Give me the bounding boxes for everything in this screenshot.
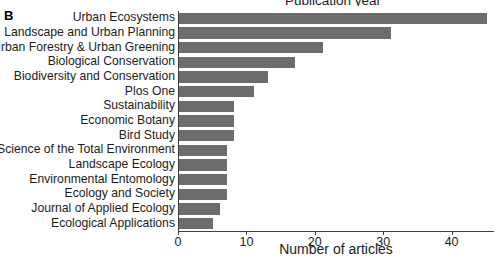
bar: [179, 189, 227, 200]
y-axis-category-label: Landscape and Urban Planning: [4, 26, 175, 40]
y-axis-category-label: Journal of Applied Ecology: [31, 202, 175, 216]
bar-row: Biodiversity and Conservation: [178, 70, 494, 85]
bar-row: Landscape Ecology: [178, 158, 494, 173]
bar-row: Journal of Applied Ecology: [178, 202, 494, 217]
y-axis-category-label: Landscape Ecology: [69, 158, 175, 172]
y-axis-category-label: Urban Ecosystems: [73, 11, 175, 25]
bar-row: Biological Conservation: [178, 55, 494, 70]
bar-row: Ecology and Society: [178, 187, 494, 202]
figure-panel-b: B Publication year 010203040 Urban Ecosy…: [0, 0, 495, 261]
bar: [179, 57, 295, 68]
bar-row: Urban Ecosystems: [178, 11, 494, 26]
bar-row: Ecological Applications: [178, 217, 494, 232]
y-axis-category-label: Plos One: [125, 85, 175, 99]
x-axis-label: Number of articles: [178, 241, 494, 257]
bar-row: Urban Forestry & Urban Greening: [178, 41, 494, 56]
y-axis-category-label: Environmental Entomology: [29, 173, 175, 187]
bar: [179, 101, 234, 112]
bar-row: Sustainability: [178, 99, 494, 114]
y-axis-category-label: Economic Botany: [80, 114, 175, 128]
y-axis-category-label: Ecological Applications: [51, 217, 175, 231]
bar: [179, 159, 227, 170]
bar-row: Bird Study: [178, 129, 494, 144]
bar: [179, 115, 234, 126]
bar: [179, 130, 234, 141]
bar: [179, 145, 227, 156]
y-axis-category-label: Ecology and Society: [65, 187, 175, 201]
y-axis-category-label: Sustainability: [103, 99, 175, 113]
bar: [179, 86, 254, 97]
y-axis-category-label: Bird Study: [119, 129, 175, 143]
bar-row: Economic Botany: [178, 114, 494, 129]
bar: [179, 27, 391, 38]
panel-label-b: B: [4, 9, 13, 22]
bar: [179, 174, 227, 185]
bar-row: Environmental Entomology: [178, 173, 494, 188]
bar-row: Landscape and Urban Planning: [178, 26, 494, 41]
bar: [179, 13, 487, 24]
y-axis-category-label: Biodiversity and Conservation: [14, 70, 175, 84]
bar: [179, 203, 220, 214]
chart-title: Publication year: [178, 0, 488, 6]
bar-row: Science of the Total Environment: [178, 143, 494, 158]
bar-chart-plot-area: 010203040 Urban EcosystemsLandscape and …: [178, 11, 494, 231]
y-axis-category-label: Urban Forestry & Urban Greening: [0, 41, 175, 55]
bar: [179, 218, 213, 229]
y-axis-category-label: Biological Conservation: [48, 55, 175, 69]
bar-row: Plos One: [178, 85, 494, 100]
bar: [179, 71, 268, 82]
y-axis-category-label: Science of the Total Environment: [0, 143, 175, 157]
bar: [179, 42, 323, 53]
